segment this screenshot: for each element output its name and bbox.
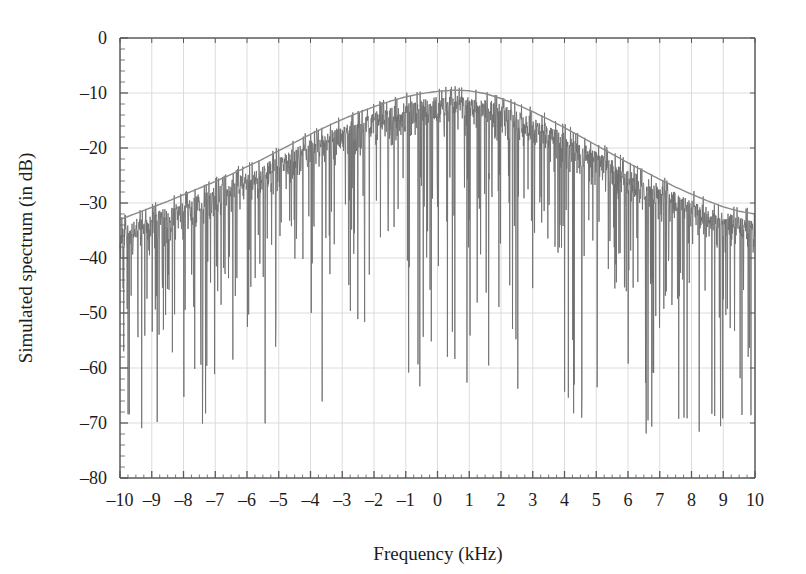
x-tick-label: –6 [237,490,256,510]
x-axis-label: Frequency (kHz) [373,543,502,565]
x-tick-label: –10 [106,490,134,510]
x-tick-label: 6 [624,490,633,510]
x-tick-label: –1 [396,490,415,510]
x-tick-label: 10 [746,490,764,510]
x-tick-label: 9 [719,490,728,510]
figure-container: –10–9–8–7–6–5–4–3–2–10123456789100–10–20… [0,0,806,574]
chart-background [0,0,806,574]
spectrum-chart: –10–9–8–7–6–5–4–3–2–10123456789100–10–20… [0,0,806,574]
x-tick-label: 2 [497,490,506,510]
y-tick-label: –30 [79,193,107,213]
x-tick-label: 7 [655,490,664,510]
y-tick-label: 0 [98,28,107,48]
y-tick-label: –80 [79,468,107,488]
x-tick-label: –4 [301,490,320,510]
x-tick-label: –5 [269,490,288,510]
x-tick-label: 1 [465,490,474,510]
x-tick-label: 0 [433,490,442,510]
y-tick-label: –40 [79,248,107,268]
x-tick-label: –3 [332,490,351,510]
y-tick-label: –50 [79,303,107,323]
x-tick-label: –9 [142,490,161,510]
y-tick-label: –20 [79,138,107,158]
x-tick-label: 4 [560,490,569,510]
x-tick-label: 8 [687,490,696,510]
y-tick-label: –60 [79,358,107,378]
y-tick-label: –10 [79,83,107,103]
x-tick-label: –7 [205,490,224,510]
x-tick-label: 5 [592,490,601,510]
y-axis-label: Simulated spectrum (in dB) [15,153,37,364]
y-tick-label: –70 [79,413,107,433]
x-tick-label: 3 [528,490,537,510]
x-tick-label: –8 [174,490,193,510]
x-tick-label: –2 [364,490,383,510]
